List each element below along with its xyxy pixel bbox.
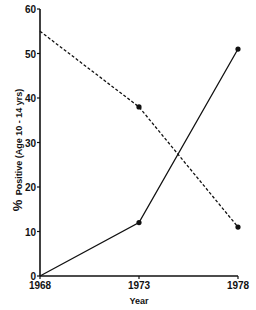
dashed-series-point: [136, 104, 141, 109]
x-ticks: 196819731978: [29, 276, 250, 291]
y-axis-title-text: Positive (Age 10 - 14 yrs): [14, 89, 24, 196]
x-tick-label: 1973: [128, 280, 151, 291]
x-axis-title: Year: [129, 296, 149, 306]
y-tick-label: 40: [25, 93, 37, 104]
series-points: [136, 46, 240, 229]
axes: [40, 9, 238, 276]
y-tick-label: 30: [25, 138, 37, 149]
x-tick-label: 1978: [227, 280, 250, 291]
line-chart: 0102030405060 196819731978 Year % Positi…: [0, 0, 256, 310]
solid-series-point: [235, 46, 240, 51]
svg-text:% Positive (Age 10 - 14: % Positive (Age 10 - 14 yrs): [10, 89, 25, 212]
y-tick-label: 20: [25, 182, 37, 193]
dashed-series-line: [40, 31, 238, 227]
series-lines: [40, 31, 238, 276]
solid-series-line: [40, 49, 238, 276]
y-axis-title: % Positive (Age 10 - 14 yrs): [10, 89, 25, 212]
x-tick-label: 1968: [29, 280, 52, 291]
y-tick-label: 60: [25, 4, 37, 15]
y-ticks: 0102030405060: [25, 4, 40, 282]
y-tick-label: 10: [25, 227, 37, 238]
y-tick-label: 50: [25, 49, 37, 60]
y-axis-title-percent: %: [10, 199, 25, 211]
solid-series-point: [136, 220, 141, 225]
dashed-series-point: [235, 224, 240, 229]
